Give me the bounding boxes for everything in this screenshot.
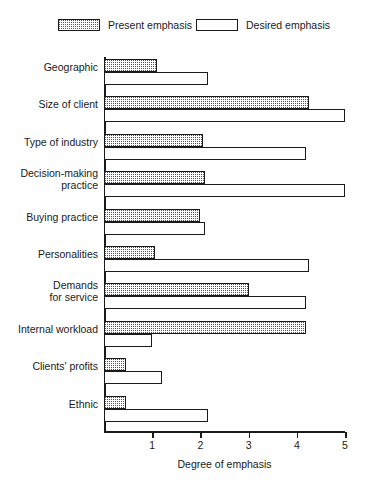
- bar-chart: Present emphasis Desired emphasis Geogra…: [0, 0, 369, 493]
- bar-group: [104, 59, 345, 86]
- x-axis-label: Degree of emphasis: [104, 458, 345, 471]
- x-axis-tick: [297, 432, 299, 438]
- legend-label-desired-emphasis: Desired emphasis: [246, 19, 330, 31]
- bar-present-emphasis: [104, 59, 157, 72]
- y-axis-tick-label: Personalities: [0, 248, 98, 260]
- bar-desired-emphasis: [104, 184, 345, 197]
- bar-present-emphasis: [104, 358, 126, 371]
- bar-present-emphasis: [104, 321, 306, 334]
- x-axis-tick-label: 2: [190, 439, 210, 452]
- y-axis-category-labels: GeographicSize of clientType of industry…: [0, 57, 98, 432]
- y-axis-tick-label: Buying practice: [0, 211, 98, 223]
- bar-group: [104, 358, 345, 385]
- y-axis-tick-label: Size of client: [0, 98, 98, 110]
- x-axis-tick: [152, 432, 154, 438]
- x-axis-tick-label: 3: [239, 439, 259, 452]
- y-axis-tick-label: Geographic: [0, 61, 98, 73]
- y-axis-tick-label: Demands for service: [0, 279, 98, 303]
- y-axis-tick-label: Type of industry: [0, 136, 98, 148]
- bar-desired-emphasis: [104, 296, 306, 309]
- bar-present-emphasis: [104, 396, 126, 409]
- x-axis-ticks: 12345: [104, 432, 345, 454]
- bar-group: [104, 209, 345, 236]
- x-axis-tick: [345, 432, 347, 438]
- bar-desired-emphasis: [104, 371, 162, 384]
- bar-group: [104, 321, 345, 348]
- x-axis-tick: [200, 432, 202, 438]
- y-axis-tick-label: Clients' profits: [0, 360, 98, 372]
- bar-present-emphasis: [104, 134, 203, 147]
- bar-desired-emphasis: [104, 334, 152, 347]
- legend-swatch-present-emphasis: [58, 19, 100, 31]
- legend-entry-present-emphasis: Present emphasis: [58, 17, 192, 33]
- bar-present-emphasis: [104, 171, 205, 184]
- y-axis-tick-label: Ethnic: [0, 398, 98, 410]
- bar-desired-emphasis: [104, 109, 345, 122]
- y-axis-tick-label: Internal workload: [0, 323, 98, 335]
- bar-group: [104, 96, 345, 123]
- bar-present-emphasis: [104, 283, 249, 296]
- bar-desired-emphasis: [104, 222, 205, 235]
- x-axis-tick-label: 1: [142, 439, 162, 452]
- bar-present-emphasis: [104, 209, 200, 222]
- bar-present-emphasis: [104, 96, 309, 109]
- bar-group: [104, 171, 345, 198]
- plot-area: [104, 57, 345, 432]
- bar-present-emphasis: [104, 246, 155, 259]
- bar-desired-emphasis: [104, 72, 208, 85]
- x-axis-tick-label: 4: [287, 439, 307, 452]
- chart-legend: Present emphasis Desired emphasis: [0, 17, 369, 33]
- legend-entry-desired-emphasis: Desired emphasis: [196, 17, 330, 33]
- bar-group: [104, 134, 345, 161]
- bar-desired-emphasis: [104, 147, 306, 160]
- y-axis-tick-label: Decision-making practice: [0, 167, 98, 191]
- bar-desired-emphasis: [104, 409, 208, 422]
- bar-group: [104, 246, 345, 273]
- bar-group: [104, 283, 345, 310]
- bar-desired-emphasis: [104, 259, 309, 272]
- legend-swatch-desired-emphasis: [196, 19, 238, 31]
- legend-label-present-emphasis: Present emphasis: [108, 19, 192, 31]
- x-axis-tick: [249, 432, 251, 438]
- bar-group: [104, 396, 345, 423]
- x-axis-tick-label: 5: [335, 439, 355, 452]
